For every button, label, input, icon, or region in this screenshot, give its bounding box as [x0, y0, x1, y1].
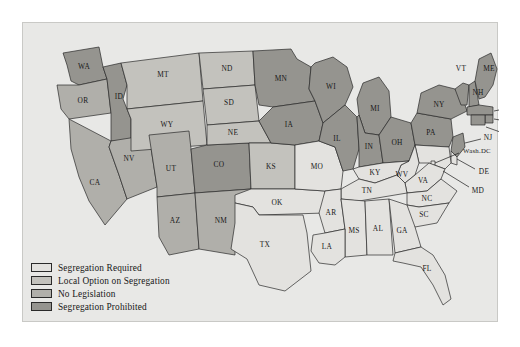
state-label-NE: NE [228, 128, 239, 137]
state-label-WV: WV [396, 170, 409, 179]
state-label-ID: ID [115, 92, 124, 101]
leader-line-ri [494, 119, 499, 121]
state-label-FL: FL [422, 264, 431, 273]
state-label-NV: NV [123, 154, 135, 163]
state-label-VT: VT [456, 64, 467, 73]
state-label-SC: SC [419, 210, 429, 219]
legend-swatch-required [31, 263, 52, 272]
state-FL[interactable] [393, 247, 451, 305]
state-label-WA: WA [78, 62, 90, 71]
leader-line-ma [494, 109, 499, 111]
state-label-PA: PA [426, 128, 436, 137]
state-label-WY: WY [161, 120, 174, 129]
state-label-WashDC: Wash.DC [463, 147, 491, 154]
state-label-UT: UT [166, 164, 177, 173]
state-label-IL: IL [333, 134, 341, 143]
legend-swatch-none [31, 289, 52, 298]
state-label-OR: OR [78, 96, 89, 105]
state-label-NJ: NJ [484, 133, 493, 142]
state-label-NH: NH [472, 88, 484, 97]
state-label-KY: KY [369, 168, 381, 177]
state-label-KS: KS [266, 162, 276, 171]
state-label-MN: MN [275, 74, 288, 83]
state-label-AR: AR [326, 208, 337, 217]
state-label-SD: SD [224, 98, 234, 107]
state-label-NC: NC [422, 194, 433, 203]
legend-label-required: Segregation Required [58, 263, 142, 273]
state-label-ME: ME [483, 64, 495, 73]
state-label-GA: GA [396, 226, 408, 235]
legend-label-none: No Legislation [58, 289, 116, 299]
leader-line-de [457, 159, 475, 169]
state-CT[interactable] [471, 115, 485, 125]
state-label-CA: CA [90, 178, 101, 187]
legend-swatch-prohibited [31, 302, 52, 311]
state-label-IN: IN [365, 142, 374, 151]
state-label-OH: OH [391, 138, 403, 147]
legend-item-local[interactable]: Local Option on Segregation [31, 274, 170, 287]
legend-item-prohibited[interactable]: Segregation Prohibited [31, 300, 170, 313]
state-label-NY: NY [433, 100, 445, 109]
state-label-NM: NM [215, 216, 228, 225]
state-label-WI: WI [326, 82, 336, 91]
state-label-VA: VA [418, 176, 429, 185]
state-label-TN: TN [362, 186, 373, 195]
state-label-OK: OK [271, 198, 283, 207]
state-label-LA: LA [322, 242, 333, 251]
state-label-MO: MO [311, 162, 324, 171]
state-label-AL: AL [373, 224, 384, 233]
state-TX[interactable] [231, 203, 311, 291]
state-RI[interactable] [485, 115, 493, 123]
state-MT[interactable] [121, 53, 203, 109]
state-label-IA: IA [285, 120, 294, 129]
legend-label-prohibited: Segregation Prohibited [58, 302, 147, 312]
state-label-MS: MS [348, 226, 359, 235]
state-MA[interactable] [467, 105, 493, 115]
state-label-TX: TX [260, 240, 271, 249]
state-label-CO: CO [214, 160, 225, 169]
legend-swatch-local [31, 276, 52, 285]
state-label-MI: MI [370, 104, 380, 113]
leader-line-nj [465, 139, 481, 143]
state-label-MT: MT [157, 70, 169, 79]
legend-item-none[interactable]: No Legislation [31, 287, 170, 300]
map-panel: WA OR ID MT WY ND SD NE MN WI IA IL MI I… [22, 22, 498, 322]
legend-item-required[interactable]: Segregation Required [31, 261, 170, 274]
state-label-ND: ND [221, 64, 233, 73]
state-label-MD: MD [472, 186, 485, 195]
state-label-DE: DE [479, 167, 490, 176]
state-label-AZ: AZ [170, 216, 181, 225]
legend: Segregation Required Local Option on Seg… [31, 261, 170, 313]
legend-label-local: Local Option on Segregation [58, 276, 170, 286]
